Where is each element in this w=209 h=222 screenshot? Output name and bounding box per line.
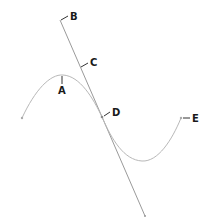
- tick-c: [81, 63, 88, 67]
- tick-d: [104, 112, 110, 116]
- label-e: E: [192, 113, 199, 124]
- diagram-canvas: B C A D E: [0, 0, 209, 222]
- point-e: [180, 117, 182, 119]
- tick-b: [61, 16, 68, 20]
- label-d: D: [112, 107, 120, 118]
- label-c: C: [90, 57, 97, 68]
- curve-start-point: [21, 117, 23, 119]
- line-end-point: [144, 215, 146, 217]
- label-b: B: [70, 11, 78, 22]
- point-d: [101, 116, 104, 119]
- label-a: A: [58, 85, 66, 96]
